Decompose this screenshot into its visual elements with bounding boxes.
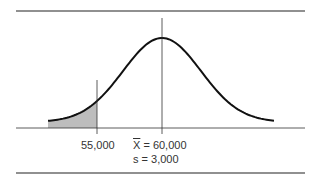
mean-value: = 60,000: [140, 139, 186, 151]
mean-label: X = 60,000: [133, 139, 187, 151]
normal-curve: [48, 38, 274, 121]
sd-label: s = 3,000: [133, 153, 179, 165]
shaded-left-tail: [48, 101, 97, 128]
cutoff-label: 55,000: [81, 139, 115, 151]
